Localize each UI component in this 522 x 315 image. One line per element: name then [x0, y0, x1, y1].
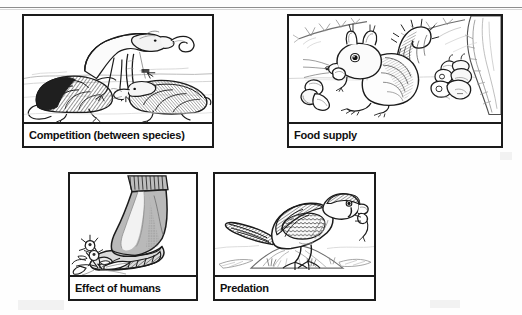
page-canvas: Competition (between species): [0, 0, 522, 315]
caption-predation: Predation: [215, 275, 374, 299]
caption-effect-of-humans-text: Effect of humans: [75, 282, 161, 294]
illustration-shrews-competing: [24, 16, 212, 122]
panel-competition[interactable]: Competition (between species): [22, 14, 214, 148]
caption-competition: Competition (between species): [24, 122, 212, 146]
panel-effect-of-humans[interactable]: Effect of humans: [68, 172, 198, 301]
header-rule-secondary: [0, 9, 522, 10]
caption-predation-text: Predation: [220, 282, 269, 294]
panel-predation[interactable]: Predation: [213, 172, 376, 301]
caption-effect-of-humans: Effect of humans: [70, 275, 196, 299]
caption-food-supply: Food supply: [289, 122, 501, 146]
caption-competition-text: Competition (between species): [29, 129, 185, 141]
page-artifact-right: [430, 300, 460, 308]
panel-food-supply[interactable]: Food supply: [287, 14, 503, 148]
page-artifact-left: [18, 300, 64, 310]
caption-food-supply-text: Food supply: [294, 129, 357, 141]
illustration-boot-crushing-plant: [70, 174, 196, 275]
illustration-raptor-with-prey: [215, 174, 374, 275]
header-rule: [0, 7, 522, 8]
illustration-squirrel-food-supply: [289, 16, 501, 122]
page-artifact-edge: [500, 152, 512, 160]
